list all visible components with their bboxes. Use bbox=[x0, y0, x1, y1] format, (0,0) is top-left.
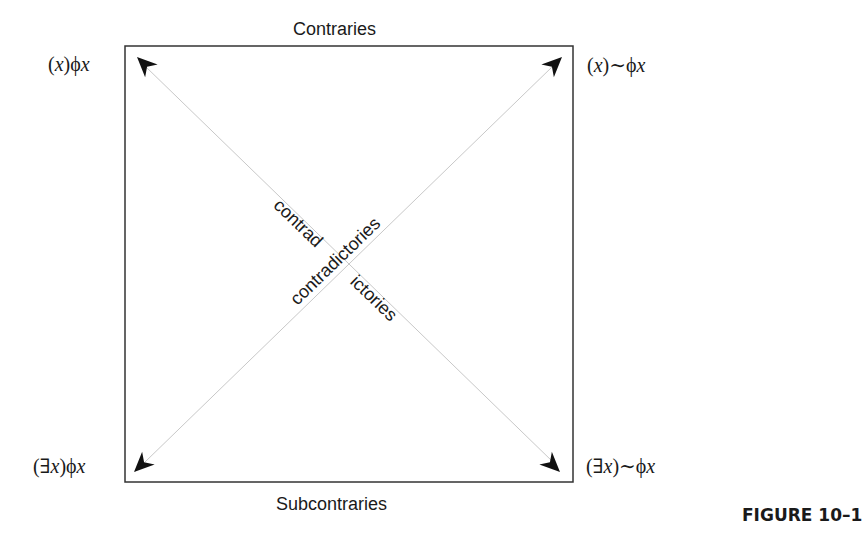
contraries-label: Contraries bbox=[293, 19, 376, 40]
figure-caption: FIGURE 10–1 bbox=[742, 505, 862, 525]
corner-formula-top-right: (x)∼ϕx bbox=[587, 53, 645, 77]
corner-formula-bottom-left: (∃x)ϕx bbox=[33, 454, 85, 478]
subcontraries-label: Subcontraries bbox=[276, 494, 387, 515]
arrowhead-bottom-right-icon bbox=[539, 452, 566, 479]
arrowhead-bottom-left-icon bbox=[128, 452, 155, 479]
corner-formula-bottom-right: (∃x)∼ϕx bbox=[586, 454, 655, 478]
arrowhead-top-left-icon bbox=[131, 51, 158, 78]
corner-formula-top-left: (x)ϕx bbox=[48, 53, 90, 76]
